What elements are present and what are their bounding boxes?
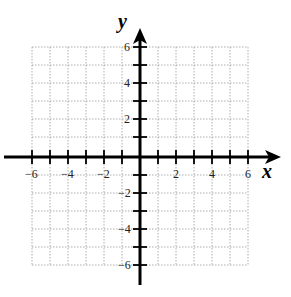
x-tick-label: 4 (209, 167, 215, 181)
y-tick-label: 2 (124, 112, 130, 126)
x-axis (4, 150, 281, 164)
y-tick-label: −6 (118, 258, 131, 272)
x-tick-label: −2 (97, 167, 110, 181)
x-tick-label: 2 (173, 167, 179, 181)
x-axis-label: x (261, 160, 272, 182)
y-tick-label: 4 (124, 76, 130, 90)
y-tick-label: 6 (124, 40, 130, 54)
coordinate-plane: −6 −4 −2 2 4 6 6 4 2 −2 −4 −6 x y (0, 0, 291, 297)
y-tick-label: −2 (118, 186, 131, 200)
x-tick-label: −6 (25, 167, 38, 181)
x-tick-label: −4 (61, 167, 74, 181)
x-tick-label: 6 (245, 167, 251, 181)
y-tick-label: −4 (118, 222, 131, 236)
y-axis-label: y (116, 10, 127, 33)
